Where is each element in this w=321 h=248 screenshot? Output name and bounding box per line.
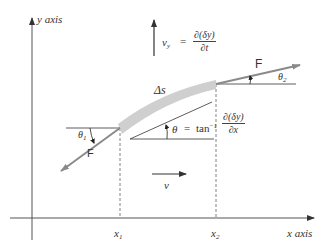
x1-label: x1 [114,228,122,241]
vy-fraction: ∂(δy) ∂t [193,30,216,53]
tan-inverse: tan−1 [196,123,217,134]
x-axis-label: x axis [287,228,312,239]
theta-fraction: ∂(δy) ∂x [222,112,245,135]
diagram-canvas [0,0,321,248]
delta-s-label: Δs [154,84,166,96]
theta2-arc-icon [250,76,251,84]
vy-equals: = [180,36,186,47]
vy-numerator: ∂(δy) [193,30,216,42]
string-element-diagram: y axis x axis x1 x2 Δs F θ2 F θ1 vy = ∂(… [0,0,321,248]
vy-symbol: vy [162,37,170,50]
theta-arc-icon [166,125,167,139]
theta-symbol: θ [172,124,177,135]
theta-numerator: ∂(δy) [222,112,245,124]
y-axis-label: y axis [37,14,62,25]
theta1-label: θ1 [78,130,86,142]
theta-denominator: ∂x [229,124,238,135]
theta1-arc-icon [90,128,94,143]
x2-label: x2 [211,228,219,241]
v-label: v [164,180,169,191]
theta2-label: θ2 [278,72,286,84]
left-force-label: F [87,148,94,159]
vy-denominator: ∂t [200,42,208,53]
right-force-label: F [255,58,262,70]
theta-equals: = [184,123,190,134]
